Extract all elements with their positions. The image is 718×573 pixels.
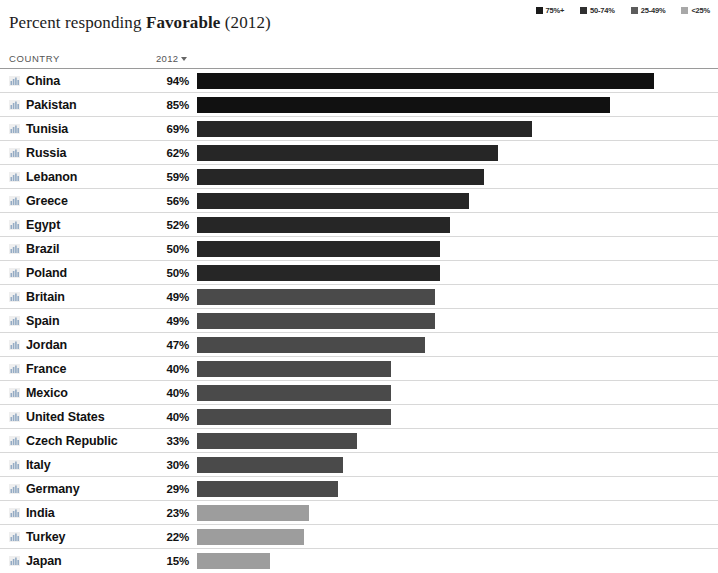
percent-value: 40% (156, 363, 197, 375)
table-row[interactable]: Turkey22% (0, 524, 718, 548)
bar-chart-icon (9, 436, 20, 446)
table-row[interactable]: Britain49% (0, 284, 718, 308)
cell-bar (197, 381, 718, 405)
cell-bar (197, 141, 718, 165)
table-row[interactable]: France40% (0, 356, 718, 380)
table-row[interactable]: Jordan47% (0, 332, 718, 356)
favorability-table: COUNTRY 2012 China94%Pakistan85%Tunisia6… (0, 48, 718, 572)
table-row[interactable]: Poland50% (0, 260, 718, 284)
cell-country: Turkey (9, 530, 156, 544)
legend-item-under-25: <25% (681, 6, 710, 15)
title-suffix: (2012) (220, 13, 270, 32)
country-label: Russia (26, 146, 66, 160)
column-header-year[interactable]: 2012 (156, 53, 187, 64)
value-bar (197, 457, 343, 473)
country-label: China (26, 74, 60, 88)
bar-chart-icon (9, 244, 20, 254)
bar-chart-icon (9, 484, 20, 494)
bar-chart-icon (9, 220, 20, 230)
percent-value: 33% (156, 435, 197, 447)
table-row[interactable]: Brazil50% (0, 236, 718, 260)
cell-country: Mexico (9, 386, 156, 400)
legend-label-50-74: 50-74% (590, 6, 615, 15)
bar-chart-icon (9, 388, 20, 398)
percent-value: 22% (156, 531, 197, 543)
value-bar (197, 289, 435, 305)
value-bar (197, 433, 357, 449)
bar-chart-icon (9, 532, 20, 542)
column-header-country[interactable]: COUNTRY (9, 53, 156, 64)
percent-value: 52% (156, 219, 197, 231)
country-label: Czech Republic (26, 434, 118, 448)
table-row[interactable]: India23% (0, 500, 718, 524)
table-row[interactable]: United States40% (0, 404, 718, 428)
cell-country: Jordan (9, 338, 156, 352)
table-row[interactable]: Japan15% (0, 548, 718, 572)
bar-chart-icon (9, 556, 20, 566)
cell-country: Lebanon (9, 170, 156, 184)
chart-legend: 75%+ 50-74% 25-49% <25% (536, 6, 711, 15)
bar-chart-icon (9, 412, 20, 422)
country-label: France (26, 362, 66, 376)
percent-value: 30% (156, 459, 197, 471)
cell-bar (197, 117, 718, 141)
table-row[interactable]: Italy30% (0, 452, 718, 476)
table-row[interactable]: Russia62% (0, 140, 718, 164)
percent-value: 23% (156, 507, 197, 519)
country-label: Turkey (26, 530, 65, 544)
percent-value: 47% (156, 339, 197, 351)
cell-country: Tunisia (9, 122, 156, 136)
bar-chart-icon (9, 364, 20, 374)
percent-value: 40% (156, 411, 197, 423)
legend-label-75-plus: 75%+ (546, 6, 565, 15)
country-label: Egypt (26, 218, 60, 232)
bar-chart-icon (9, 100, 20, 110)
cell-bar (197, 453, 718, 477)
legend-label-under-25: <25% (691, 6, 710, 15)
table-row[interactable]: Czech Republic33% (0, 428, 718, 452)
table-row[interactable]: Greece56% (0, 188, 718, 212)
percent-value: 40% (156, 387, 197, 399)
country-label: Greece (26, 194, 68, 208)
table-row[interactable]: Lebanon59% (0, 164, 718, 188)
percent-value: 15% (156, 555, 197, 567)
value-bar (197, 505, 309, 521)
cell-country: Britain (9, 290, 156, 304)
cell-bar (197, 477, 718, 501)
cell-bar (197, 237, 718, 261)
value-bar (197, 361, 391, 377)
cell-bar (197, 501, 718, 525)
table-body: China94%Pakistan85%Tunisia69%Russia62%Le… (0, 68, 718, 572)
table-row[interactable]: China94% (0, 68, 718, 92)
country-label: Germany (26, 482, 80, 496)
table-row[interactable]: Spain49% (0, 308, 718, 332)
cell-bar (197, 69, 718, 93)
table-row[interactable]: Egypt52% (0, 212, 718, 236)
cell-country: Pakistan (9, 98, 156, 112)
value-bar (197, 121, 532, 137)
cell-country: Spain (9, 314, 156, 328)
value-bar (197, 217, 450, 233)
legend-label-25-49: 25-49% (641, 6, 666, 15)
bar-chart-icon (9, 76, 20, 86)
cell-country: China (9, 74, 156, 88)
table-row[interactable]: Mexico40% (0, 380, 718, 404)
country-label: Italy (26, 458, 51, 472)
cell-bar (197, 333, 718, 357)
value-bar (197, 529, 304, 545)
value-bar (197, 481, 338, 497)
country-label: Poland (26, 266, 67, 280)
sort-descending-icon[interactable] (181, 57, 187, 61)
country-label: Tunisia (26, 122, 68, 136)
legend-swatch-75-plus (536, 7, 543, 14)
table-row[interactable]: Tunisia69% (0, 116, 718, 140)
country-label: Pakistan (26, 98, 77, 112)
country-label: Britain (26, 290, 65, 304)
cell-bar (197, 309, 718, 333)
table-row[interactable]: Pakistan85% (0, 92, 718, 116)
cell-country: Greece (9, 194, 156, 208)
bar-chart-icon (9, 124, 20, 134)
table-row[interactable]: Germany29% (0, 476, 718, 500)
country-label: Japan (26, 554, 62, 568)
percent-value: 49% (156, 315, 197, 327)
